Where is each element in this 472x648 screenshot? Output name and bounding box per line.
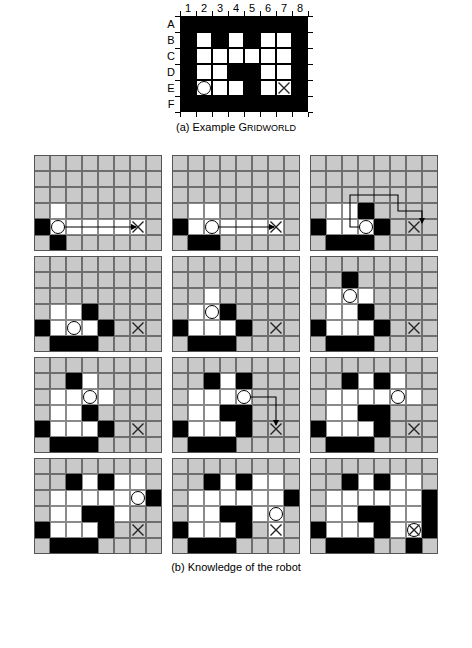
knowledge-cell-E8 [146,421,162,437]
knowledge-cell-B1 [34,272,50,288]
knowledge-cell-B3 [342,272,358,288]
knowledge-cell-F3 [204,538,220,554]
knowledge-cell-E1 [310,320,326,336]
knowledge-cell-A1 [172,256,188,272]
knowledge-cell-C6 [390,288,406,304]
grid-cell-E6 [260,80,276,96]
knowledge-cell-C1 [34,389,50,405]
knowledge-cell-B2 [326,272,342,288]
knowledge-cell-A1 [310,256,326,272]
grid-cell-E8 [292,80,308,96]
knowledge-cell-E3 [342,320,358,336]
knowledge-cell-D3 [342,506,358,522]
knowledge-cell-C1 [310,389,326,405]
knowledge-cell-D5 [98,304,114,320]
knowledge-cell-F2 [50,336,66,352]
knowledge-cell-C7 [406,389,422,405]
knowledge-cell-F2 [188,336,204,352]
knowledge-cell-E3 [204,320,220,336]
knowledge-cell-C5 [374,288,390,304]
knowledge-cell-A4 [358,357,374,373]
knowledge-cell-E5 [98,320,114,336]
knowledge-cell-B5 [374,272,390,288]
knowledge-cell-C8 [146,288,162,304]
knowledge-cell-E4 [220,522,236,538]
knowledge-cell-B1 [310,272,326,288]
grid-cell-E2 [196,80,212,96]
caption-a-prefix: (a) Example [176,121,238,133]
knowledge-cell-D1 [310,405,326,421]
grid-cell-D7 [276,64,292,80]
knowledge-cell-D6 [114,405,130,421]
knowledge-cell-E8 [146,522,162,538]
knowledge-grid-cells-11 [172,458,300,554]
knowledge-cell-C8 [146,389,162,405]
knowledge-cell-F6 [252,538,268,554]
knowledge-cell-A3 [342,458,358,474]
knowledge-cell-D4 [358,304,374,320]
knowledge-cell-C3 [66,389,82,405]
knowledge-cell-E8 [422,421,438,437]
knowledge-cell-D1 [172,304,188,320]
knowledge-cell-D7 [130,304,146,320]
knowledge-cell-D8 [146,506,162,522]
knowledge-cell-F4 [358,538,374,554]
knowledge-cell-C1 [172,288,188,304]
knowledge-cell-D7 [130,405,146,421]
knowledge-cell-A8 [284,458,300,474]
knowledge-cell-F6 [114,538,130,554]
knowledge-cell-F8 [146,437,162,453]
knowledge-cell-B3 [204,272,220,288]
knowledge-cell-E1 [34,320,50,336]
knowledge-cell-E1 [310,522,326,538]
knowledge-cell-C6 [114,288,130,304]
knowledge-cell-A6 [390,458,406,474]
knowledge-cell-D7 [130,506,146,522]
knowledge-cell-F4 [358,437,374,453]
knowledge-cell-B3 [66,373,82,389]
knowledge-cell-B4 [358,373,374,389]
knowledge-cell-F5 [236,336,252,352]
knowledge-cell-C3 [66,490,82,506]
knowledge-cell-A4 [358,458,374,474]
knowledge-cell-B1 [172,474,188,490]
grid-cell-F2 [196,96,212,112]
knowledge-cell-B5 [98,272,114,288]
knowledge-cell-E7 [406,320,422,336]
knowledge-cell-B4 [82,373,98,389]
knowledge-cell-A8 [284,256,300,272]
knowledge-cell-F6 [390,437,406,453]
knowledge-cell-D8 [146,405,162,421]
knowledge-cell-F7 [406,336,422,352]
panel-b-grid-rows [0,155,472,554]
knowledge-cell-B4 [82,474,98,490]
knowledge-cell-F1 [310,538,326,554]
knowledge-cell-C8 [146,490,162,506]
grid-cell-D3 [212,64,228,80]
knowledge-cell-E5 [374,421,390,437]
knowledge-cell-B7 [406,272,422,288]
knowledge-cell-C7 [130,490,146,506]
knowledge-grid-11 [172,458,300,554]
grid-cell-C6 [260,48,276,64]
knowledge-cell-E3 [66,320,82,336]
knowledge-cell-A2 [326,256,342,272]
knowledge-cell-D6 [390,304,406,320]
knowledge-cell-F7 [268,336,284,352]
knowledge-cell-F6 [390,538,406,554]
knowledge-cell-D5 [236,304,252,320]
knowledge-grid-6 [310,256,438,352]
knowledge-cell-F3 [342,336,358,352]
knowledge-cell-C1 [34,490,50,506]
knowledge-cell-D8 [284,506,300,522]
knowledge-cell-F3 [66,336,82,352]
knowledge-cell-C4 [358,389,374,405]
knowledge-cell-C3 [342,389,358,405]
knowledge-cell-F1 [172,336,188,352]
knowledge-grid-cells-6 [310,256,438,352]
grid-cell-D8 [292,64,308,80]
knowledge-cell-C5 [236,490,252,506]
knowledge-cell-A6 [252,458,268,474]
knowledge-grid-1 [34,155,162,251]
knowledge-cell-C2 [326,389,342,405]
